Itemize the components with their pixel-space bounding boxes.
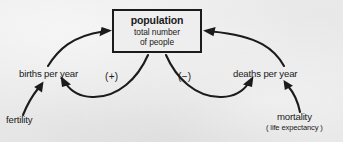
population-subtitle-line-2: of people [140,38,174,48]
node-label-births: births per year [19,69,78,80]
population-title: population [131,14,184,26]
node-label-mortality-sublabel: ( life expectancy ) [266,124,323,132]
arrow-fertility-to-births [23,82,44,116]
loop-sign-negative: (−) [178,71,191,82]
node-label-fertility: fertility [6,115,32,126]
node-label-mortality: mortality ( life expectancy ) [266,112,323,132]
diagram-canvas: population total number of people births… [0,0,343,142]
population-stock-box: population total number of people [112,9,202,53]
arrow-births-to-population [48,27,112,66]
arrow-mortality-to-deaths [284,80,301,112]
loop-sign-positive: (+) [105,71,118,82]
node-label-deaths: deaths per year [233,69,297,80]
arrow-deaths-to-population [203,27,284,66]
node-label-mortality-main: mortality [266,112,323,123]
